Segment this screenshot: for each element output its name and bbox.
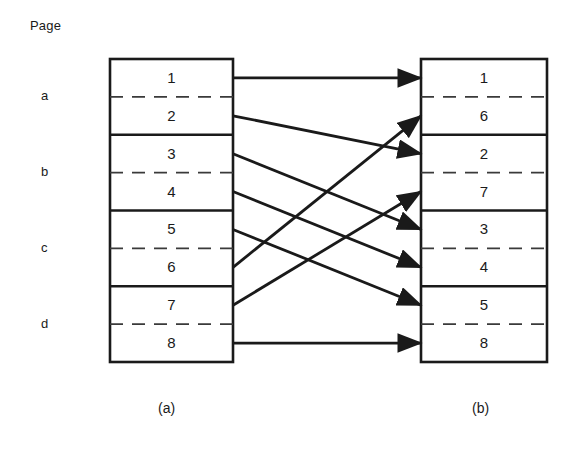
page-group-label-a: a <box>41 88 48 103</box>
left-panel-cell: 2 <box>110 107 233 124</box>
page-group-label-b: b <box>41 164 48 179</box>
page-mapping-diagram: Page abcd 12345678 16273458 (a)(b) <box>0 0 585 453</box>
right-panel-cell: 1 <box>421 69 547 86</box>
figure-caption-b: (b) <box>472 400 489 416</box>
left-panel-cell: 5 <box>110 220 233 237</box>
right-panel-cell: 5 <box>421 296 547 313</box>
right-panel-cell: 2 <box>421 145 547 162</box>
mapping-arrow-7-to-7 <box>233 192 421 306</box>
left-panel-cell: 7 <box>110 296 233 313</box>
right-panel-cell: 4 <box>421 258 547 275</box>
mapping-arrow-2-to-2 <box>233 116 421 154</box>
mapping-arrow-6-to-6 <box>233 116 421 268</box>
left-panel-cell: 1 <box>110 69 233 86</box>
mapping-arrow-5-to-5 <box>233 229 421 305</box>
right-panel-cell: 6 <box>421 107 547 124</box>
figure-caption-a: (a) <box>158 400 175 416</box>
right-panel-cell: 7 <box>421 183 547 200</box>
page-group-label-d: d <box>41 316 48 331</box>
page-header-label: Page <box>30 18 61 33</box>
right-panel-cell: 3 <box>421 220 547 237</box>
panel-outlines <box>110 59 547 362</box>
left-panel-cell: 8 <box>110 334 233 351</box>
left-panel-cell: 4 <box>110 183 233 200</box>
left-panel-cell: 6 <box>110 258 233 275</box>
mapping-arrows <box>233 78 421 343</box>
left-panel-cell: 3 <box>110 145 233 162</box>
right-panel-cell: 8 <box>421 334 547 351</box>
mapping-arrow-4-to-4 <box>233 192 421 268</box>
page-group-label-c: c <box>41 240 48 255</box>
